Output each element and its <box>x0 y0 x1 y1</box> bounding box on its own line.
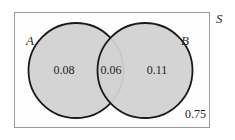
region-value-outside: 0.75 <box>166 108 206 120</box>
region-value-a-only: 0.08 <box>46 64 82 76</box>
region-value-b-only: 0.11 <box>139 64 175 76</box>
region-value-intersection: 0.06 <box>93 64 129 76</box>
venn-diagram-figure: A B S 0.08 0.06 0.11 0.75 <box>0 0 235 140</box>
set-a-label: A <box>26 34 34 47</box>
set-b-label: B <box>181 34 189 47</box>
universal-set-label: S <box>216 12 223 25</box>
